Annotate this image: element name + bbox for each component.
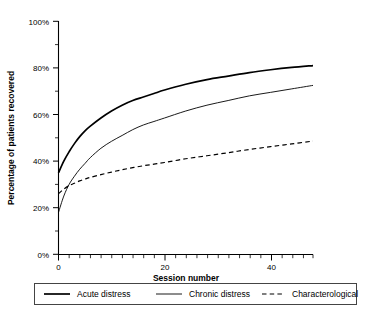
legend-label-acute-distress: Acute distress [77, 289, 130, 299]
y-tick-label: 20% [33, 204, 49, 213]
x-axis-tick-labels: 0 20 40 [56, 263, 276, 272]
series-line-acute-distress [59, 66, 314, 173]
chart-legend: Acute distress Chronic distress Characte… [35, 284, 359, 305]
y-tick-label: 0% [37, 251, 49, 260]
series-line-characterological [59, 141, 314, 194]
y-tick-label: 40% [33, 157, 49, 166]
x-tick-label: 0 [56, 263, 61, 272]
recovery-curve-chart: Percentage of patients recovered 100% 80… [0, 0, 370, 313]
x-tick-label: 20 [161, 263, 170, 272]
y-axis-tick-labels: 100% 80% 60% 40% 20% 0% [29, 18, 49, 260]
x-axis-ticks [59, 255, 314, 261]
x-tick-label: 40 [267, 263, 276, 272]
x-axis-title: Session number [153, 273, 220, 283]
data-series-group [59, 66, 314, 213]
y-tick-label: 60% [33, 111, 49, 120]
y-axis-ticks [53, 21, 59, 254]
legend-label-chronic-distress: Chronic distress [189, 289, 250, 299]
legend-label-characterological: Characterological [292, 289, 358, 299]
chart-figure: Percentage of patients recovered 100% 80… [0, 0, 370, 313]
y-tick-label: 100% [29, 18, 49, 27]
series-line-chronic-distress [59, 85, 314, 212]
y-tick-label: 80% [33, 64, 49, 73]
y-axis-title: Percentage of patients recovered [6, 71, 16, 205]
